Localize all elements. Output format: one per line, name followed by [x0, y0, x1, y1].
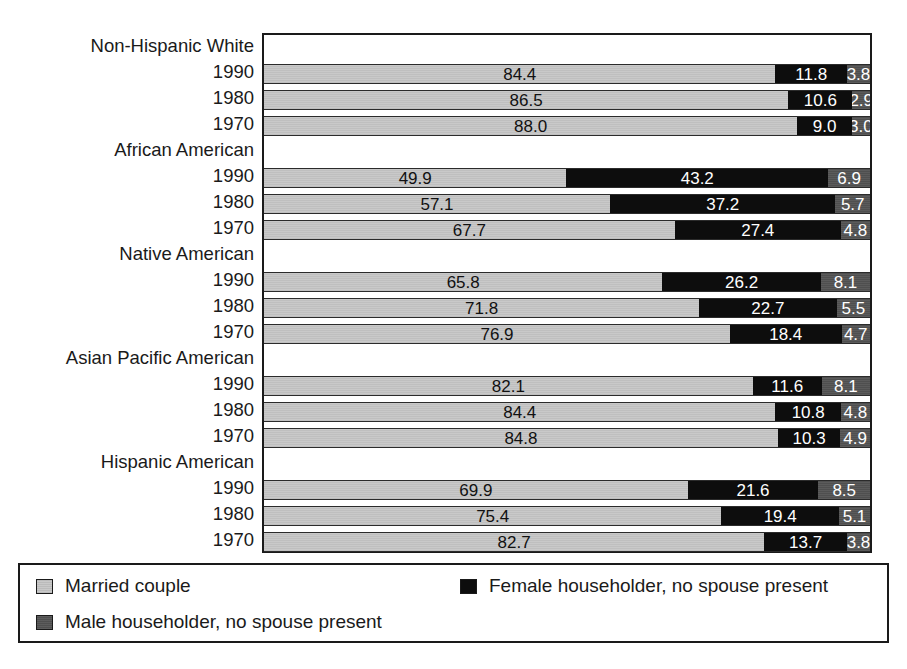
segment-value: 5.1 — [843, 508, 867, 525]
married-couple-swatch — [36, 579, 53, 594]
legend-row-1: Married couple Female householder, no sp… — [20, 569, 887, 603]
plot-inner: 84.411.83.886.510.62.988.09.03.049.943.2… — [264, 35, 870, 551]
bar-segment-female: 10.8 — [775, 403, 840, 421]
segment-value: 22.7 — [751, 300, 784, 317]
segment-value: 57.1 — [420, 196, 453, 213]
year-label-1970: 1970 — [0, 111, 254, 137]
stacked-bar: 65.826.28.1 — [264, 272, 870, 292]
stacked-bar: 84.810.34.9 — [264, 428, 870, 448]
bar-segment-married: 82.7 — [264, 533, 764, 551]
bar-segment-female: 43.2 — [566, 169, 828, 187]
segment-value: 86.5 — [510, 92, 543, 109]
legend-item-male-householder: Male householder, no spouse present — [36, 605, 382, 639]
bar-segment-male: 4.7 — [842, 325, 870, 343]
segment-value: 21.6 — [736, 482, 769, 499]
chart-row: 49.943.26.9 — [264, 165, 870, 191]
bar-segment-married: 75.4 — [264, 507, 721, 525]
bar-segment-female: 21.6 — [688, 481, 819, 499]
bar-segment-male: 8.1 — [822, 377, 870, 395]
segment-value: 88.0 — [514, 118, 547, 135]
year-label-1990: 1990 — [0, 163, 254, 189]
segment-value: 4.7 — [844, 326, 868, 343]
segment-value: 84.8 — [504, 430, 537, 447]
segment-value: 3.0 — [852, 118, 870, 135]
plot-area: 84.411.83.886.510.62.988.09.03.049.943.2… — [262, 33, 872, 553]
group-label-hispanic-american: Hispanic American — [0, 449, 254, 475]
segment-value: 10.8 — [792, 404, 825, 421]
chart-row: 76.918.44.7 — [264, 321, 870, 347]
female-householder-swatch — [460, 579, 477, 594]
bar-segment-female: 9.0 — [797, 117, 852, 135]
stacked-bar: 82.713.73.8 — [264, 532, 870, 552]
segment-value: 3.8 — [847, 66, 870, 83]
segment-value: 10.3 — [793, 430, 826, 447]
bar-segment-male: 3.0 — [852, 117, 870, 135]
chart-row: 84.410.84.8 — [264, 399, 870, 425]
year-label-1990: 1990 — [0, 267, 254, 293]
bar-segment-male: 8.5 — [818, 481, 870, 499]
bar-segment-male: 5.5 — [837, 299, 870, 317]
segment-value: 5.5 — [841, 300, 865, 317]
segment-value: 49.9 — [399, 170, 432, 187]
bar-segment-female: 11.6 — [753, 377, 822, 395]
bar-segment-married: 65.8 — [264, 273, 662, 291]
bar-segment-married: 67.7 — [264, 221, 675, 239]
stacked-bar: 84.411.83.8 — [264, 64, 870, 84]
chart-row: 82.111.68.1 — [264, 373, 870, 399]
bar-segment-female: 19.4 — [721, 507, 839, 525]
bar-segment-female: 26.2 — [662, 273, 821, 291]
y-axis-label-column: Non-Hispanic White199019801970African Am… — [0, 33, 254, 553]
segment-value: 9.0 — [813, 118, 837, 135]
segment-value: 26.2 — [725, 274, 758, 291]
chart-row: 82.713.73.8 — [264, 529, 870, 555]
segment-value: 2.9 — [852, 92, 870, 109]
segment-value: 6.9 — [837, 170, 861, 187]
segment-value: 5.7 — [841, 196, 865, 213]
chart-row: 69.921.68.5 — [264, 477, 870, 503]
year-label-1980: 1980 — [0, 189, 254, 215]
chart-row: 88.09.03.0 — [264, 113, 870, 139]
segment-value: 10.6 — [804, 92, 837, 109]
bar-segment-female: 27.4 — [675, 221, 841, 239]
segment-value: 84.4 — [503, 404, 536, 421]
year-label-1980: 1980 — [0, 501, 254, 527]
bar-segment-male: 6.9 — [828, 169, 870, 187]
bar-segment-female: 10.6 — [788, 91, 852, 109]
bar-segment-male: 4.9 — [840, 429, 870, 447]
bar-segment-male: 2.9 — [852, 91, 870, 109]
group-label-native-american: Native American — [0, 241, 254, 267]
legend-row-2: Male householder, no spouse present — [20, 605, 887, 639]
bar-segment-male: 3.8 — [847, 533, 870, 551]
legend-label-female-householder: Female householder, no spouse present — [489, 575, 828, 597]
segment-value: 19.4 — [764, 508, 797, 525]
segment-value: 8.1 — [834, 378, 858, 395]
chart-row: 71.822.75.5 — [264, 295, 870, 321]
bar-segment-female: 10.3 — [778, 429, 840, 447]
year-label-1980: 1980 — [0, 293, 254, 319]
segment-value: 37.2 — [706, 196, 739, 213]
stacked-bar: 88.09.03.0 — [264, 116, 870, 136]
year-label-1980: 1980 — [0, 397, 254, 423]
segment-value: 4.9 — [843, 430, 867, 447]
bar-segment-female: 11.8 — [775, 65, 847, 83]
chart-legend: Married couple Female householder, no sp… — [18, 563, 889, 643]
bar-segment-female: 37.2 — [610, 195, 835, 213]
year-label-1990: 1990 — [0, 371, 254, 397]
stacked-bar: 76.918.44.7 — [264, 324, 870, 344]
segment-value: 27.4 — [741, 222, 774, 239]
chart-row: 65.826.28.1 — [264, 269, 870, 295]
segment-value: 11.8 — [795, 66, 827, 83]
year-label-1990: 1990 — [0, 59, 254, 85]
segment-value: 67.7 — [453, 222, 486, 239]
segment-value: 3.8 — [847, 534, 870, 551]
stacked-bar: 86.510.62.9 — [264, 90, 870, 110]
bar-segment-female: 13.7 — [764, 533, 847, 551]
stacked-bar: 71.822.75.5 — [264, 298, 870, 318]
chart-row: 84.411.83.8 — [264, 61, 870, 87]
segment-value: 82.1 — [492, 378, 525, 395]
group-label-asian-pacific-american: Asian Pacific American — [0, 345, 254, 371]
legend-item-married-couple: Married couple — [36, 569, 191, 603]
stacked-bar-chart: Non-Hispanic White199019801970African Am… — [0, 0, 907, 669]
segment-value: 18.4 — [769, 326, 802, 343]
bar-segment-female: 22.7 — [699, 299, 837, 317]
